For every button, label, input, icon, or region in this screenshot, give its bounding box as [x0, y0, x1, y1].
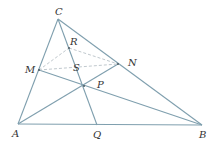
side-ab [18, 124, 202, 125]
point-r-marker [68, 47, 70, 49]
dashed-mr [39, 48, 69, 70]
label-p: P [96, 79, 104, 90]
label-c: C [55, 6, 63, 17]
triangle-diagram: A B C M N R S P Q [0, 0, 224, 147]
point-n-marker [117, 63, 119, 65]
cevian-bm [39, 70, 202, 125]
label-q: Q [93, 129, 101, 140]
label-b: B [198, 129, 206, 140]
side-ca [18, 19, 58, 124]
label-a: A [11, 128, 19, 139]
label-n: N [127, 57, 138, 68]
label-s: S [73, 62, 80, 73]
label-m: M [24, 64, 36, 75]
label-r: R [69, 36, 78, 47]
point-m-marker [38, 69, 40, 71]
point-p-marker [83, 85, 85, 87]
